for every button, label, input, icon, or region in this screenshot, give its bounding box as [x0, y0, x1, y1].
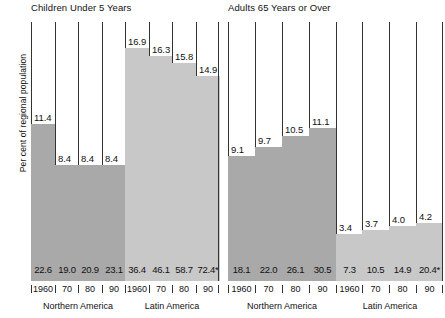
bar-percent-label: 8.4 — [105, 153, 118, 164]
bar-value-label: 72.4* — [196, 264, 220, 275]
bar-percent-label: 10.5 — [285, 124, 303, 135]
bar-value-label: 19.0 — [55, 264, 79, 275]
x-tick-mark — [125, 285, 126, 293]
panel-title: Adults 65 Years or Over — [228, 2, 331, 13]
bar-percent-label: 3.7 — [365, 218, 378, 229]
x-tick-mark — [362, 285, 363, 293]
x-tick-label: 1960 — [31, 284, 55, 294]
bar-percent-label: 16.9 — [128, 36, 146, 47]
chart-panel-1: Children Under 5 Years11.422.619608.419.… — [31, 0, 219, 318]
x-tick-mark — [31, 285, 32, 293]
x-tick-label: 80 — [172, 284, 196, 294]
group-label: Latin America — [125, 301, 219, 311]
bar-percent-label: 11.4 — [34, 112, 51, 123]
bar-value-label: 10.5 — [362, 264, 389, 275]
x-tick-label: 1960 — [125, 284, 149, 294]
bar-percent-label: 8.4 — [58, 153, 71, 164]
x-tick-label: 90 — [309, 284, 336, 294]
bar-percent-label: 9.1 — [231, 144, 244, 155]
bar — [309, 128, 336, 281]
gridline — [218, 22, 219, 281]
bar-value-label: 22.6 — [31, 264, 55, 275]
bar — [125, 48, 149, 281]
x-tick-label: 1960 — [228, 284, 255, 294]
bar-percent-label: 15.8 — [175, 51, 193, 62]
group-label: Northern America — [31, 301, 125, 311]
panel-title: Children Under 5 Years — [31, 2, 131, 13]
x-tick-mark — [78, 285, 79, 293]
bar-value-label: 22.0 — [255, 264, 282, 275]
x-tick-label: 70 — [149, 284, 173, 294]
bar-value-label: 36.4 — [125, 264, 149, 275]
x-tick-mark — [218, 285, 219, 293]
y-axis-label: Per cent of regional population — [18, 28, 28, 198]
x-tick-mark — [309, 285, 310, 293]
bar-percent-label: 11.1 — [312, 116, 329, 127]
x-tick-mark — [149, 285, 150, 293]
x-tick-label: 90 — [416, 284, 443, 294]
bar-value-label: 20.4* — [416, 264, 443, 275]
x-tick-label: 1960 — [336, 284, 363, 294]
x-tick-mark — [282, 285, 283, 293]
bar — [228, 156, 255, 281]
bar-percent-label: 14.9 — [199, 64, 217, 75]
x-tick-label: 70 — [55, 284, 79, 294]
x-tick-label: 80 — [282, 284, 309, 294]
x-tick-mark — [442, 285, 443, 293]
x-tick-label: 80 — [389, 284, 416, 294]
chart-panel-2: Adults 65 Years or Over9.118.119609.722.… — [228, 0, 443, 318]
x-tick-label: 90 — [196, 284, 220, 294]
group-label: Latin America — [336, 301, 444, 311]
bar — [172, 63, 196, 281]
x-tick-mark — [102, 285, 103, 293]
x-tick-mark — [336, 285, 337, 293]
bar-value-label: 58.7 — [172, 264, 196, 275]
x-tick-mark — [228, 285, 229, 293]
bar-percent-label: 4.0 — [392, 214, 405, 225]
bar — [31, 124, 55, 281]
bar-value-label: 26.1 — [282, 264, 309, 275]
bar — [196, 76, 220, 281]
x-tick-label: 90 — [102, 284, 126, 294]
bar-percent-label: 3.4 — [339, 222, 352, 233]
x-tick-mark — [255, 285, 256, 293]
x-tick-mark — [389, 285, 390, 293]
bar-value-label: 20.9 — [78, 264, 102, 275]
x-tick-mark — [55, 285, 56, 293]
gridline — [442, 22, 443, 281]
x-tick-mark — [196, 285, 197, 293]
group-label: Northern America — [228, 301, 336, 311]
x-tick-label: 70 — [362, 284, 389, 294]
bar-value-label: 7.3 — [336, 264, 363, 275]
x-tick-label: 80 — [78, 284, 102, 294]
bar-value-label: 30.5 — [309, 264, 336, 275]
bar — [255, 147, 282, 281]
bar-value-label: 23.1 — [102, 264, 126, 275]
bar-percent-label: 4.2 — [419, 211, 432, 222]
x-tick-label: 70 — [255, 284, 282, 294]
bar-value-label: 18.1 — [228, 264, 255, 275]
bar — [149, 56, 173, 281]
x-tick-mark — [416, 285, 417, 293]
bar-value-label: 14.9 — [389, 264, 416, 275]
chart-root: Per cent of regional population Children… — [0, 0, 445, 318]
bar-percent-label: 8.4 — [81, 153, 94, 164]
bar-percent-label: 16.3 — [152, 44, 170, 55]
bar-value-label: 46.1 — [149, 264, 173, 275]
bar-percent-label: 9.7 — [258, 135, 271, 146]
bar — [282, 136, 309, 281]
x-tick-mark — [172, 285, 173, 293]
